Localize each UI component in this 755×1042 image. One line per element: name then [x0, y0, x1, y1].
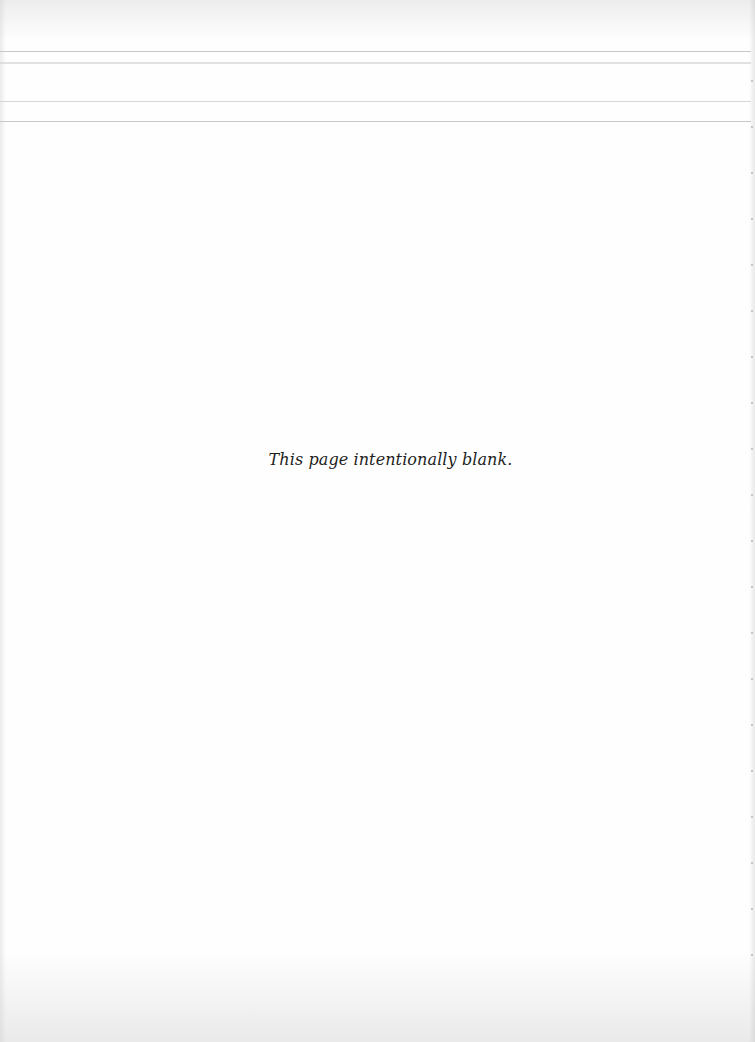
blank-page-notice: This page intentionally blank.	[0, 450, 755, 469]
bleed-through-rule	[0, 62, 751, 64]
bleed-through-rule	[0, 101, 751, 102]
bleed-through-rule	[0, 121, 751, 122]
bleed-through-rule	[0, 51, 751, 52]
document-page: This page intentionally blank.	[0, 0, 755, 1042]
page-edge-marks	[751, 80, 753, 980]
